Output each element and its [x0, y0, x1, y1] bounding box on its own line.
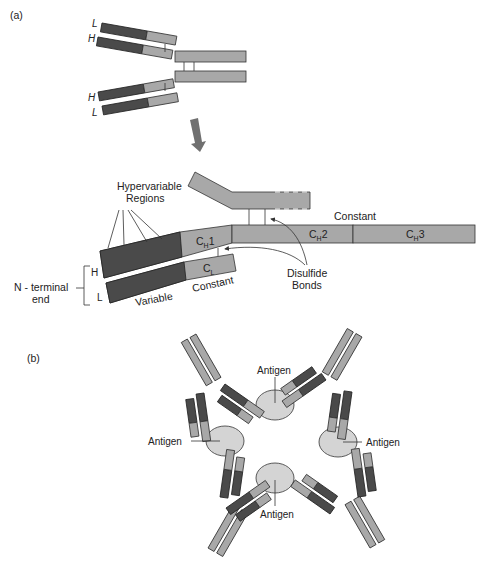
light-chain-label: L: [97, 292, 103, 303]
disulfide-label-line1: Disulfide: [287, 267, 327, 279]
n-terminal-label-line1: N - terminal: [14, 281, 68, 293]
chain-label-L-bottom: L: [92, 107, 98, 118]
antigen-label-bottom: Antigen: [260, 509, 294, 520]
antibody-schematic-top: L H H L: [88, 18, 246, 118]
heavy-chain-label: H: [91, 267, 98, 278]
antigen-label-right: Antigen: [366, 437, 400, 448]
n-terminal-label-line2: end: [32, 293, 50, 305]
antigen-label-left: Antigen: [148, 436, 182, 447]
antibody-antigen-lattice: [181, 329, 384, 557]
chain-label-L-top: L: [92, 18, 98, 29]
chain-label-H-bottom: H: [88, 92, 96, 103]
chain-label-H-top: H: [88, 33, 96, 44]
panel-a-label: (a): [10, 9, 23, 21]
down-arrow-icon: [190, 118, 206, 152]
hypervariable-label-line2: Regions: [126, 192, 165, 204]
disulfide-label-line2: Bonds: [292, 279, 322, 291]
panel-b-label: (b): [27, 352, 40, 364]
antibody-structure-diagram: (a) L H H L: [0, 0, 487, 573]
hypervariable-label-line1: Hypervariable: [117, 180, 182, 192]
constant-label-top: Constant: [334, 210, 376, 222]
antigen-label-top: Antigen: [257, 365, 291, 376]
